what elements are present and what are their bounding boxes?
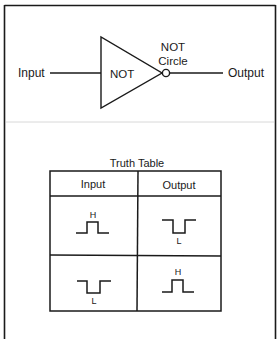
truth-table-title: Truth Table [110, 157, 164, 169]
level-label-l: L [176, 236, 181, 246]
not-gate-figure: Input NOT NOT Circle Output Truth Table … [0, 0, 279, 339]
not-gate-symbol [50, 37, 223, 108]
table-row: L H [77, 267, 194, 306]
level-label-h: H [90, 210, 97, 220]
circle-label-line1: NOT [161, 41, 185, 53]
figure-svg: Input NOT NOT Circle Output Truth Table … [0, 0, 279, 339]
input-low-pulse-waveform: L [77, 281, 111, 306]
circle-label-line2: Circle [158, 55, 187, 67]
input-high-pulse-waveform: H [76, 210, 109, 233]
output-label: Output [228, 66, 265, 80]
output-high-pulse-waveform: H [162, 267, 194, 292]
table-row: H L [76, 210, 196, 246]
input-label: Input [18, 66, 45, 80]
level-label-h: H [175, 267, 182, 277]
output-low-pulse-waveform: L [162, 220, 196, 246]
header-output: Output [162, 179, 195, 191]
header-input: Input [81, 178, 105, 190]
level-label-l: L [91, 296, 96, 306]
column-divider [137, 171, 138, 311]
gate-label: NOT [110, 68, 134, 80]
outer-frame [5, 5, 276, 339]
truth-table [50, 171, 221, 311]
row-divider [50, 255, 221, 256]
table-border [50, 171, 221, 311]
not-circle [162, 69, 169, 76]
